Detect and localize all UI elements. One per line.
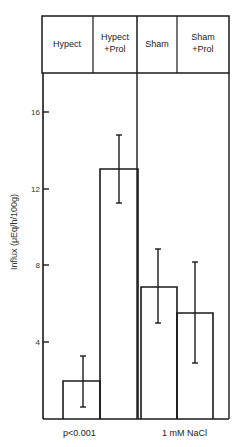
p-value-annotation: p<0.001 bbox=[63, 428, 96, 438]
ytick-12: 12 bbox=[31, 185, 40, 194]
bars bbox=[63, 169, 213, 419]
ytick-16: 16 bbox=[31, 108, 40, 117]
header-sham-prol-line2: +Prol bbox=[192, 44, 213, 54]
ytick-8: 8 bbox=[36, 261, 41, 270]
bar-hypect-prol bbox=[100, 169, 138, 419]
y-axis-ticks bbox=[43, 112, 49, 342]
condition-annotation: 1 mM NaCl bbox=[162, 428, 207, 438]
header-sham: Sham bbox=[145, 39, 169, 49]
header-hypect-prol-line2: +Prol bbox=[104, 44, 125, 54]
header-sham-prol-line1: Sham bbox=[191, 32, 215, 42]
header-hypect-prol-line1: Hypect bbox=[101, 32, 130, 42]
error-bar-sham bbox=[155, 249, 161, 323]
error-bars bbox=[80, 135, 198, 407]
header-hypect: Hypect bbox=[53, 39, 82, 49]
ytick-4: 4 bbox=[36, 338, 41, 347]
plot-frame bbox=[43, 73, 229, 419]
bar-hypect bbox=[63, 381, 100, 419]
y-axis-label: Influx (μEq/h/100g) bbox=[9, 194, 19, 270]
bar-chart: Hypect Hypect +Prol Sham Sham +Prol 16 1… bbox=[0, 0, 245, 447]
bar-sham bbox=[141, 287, 177, 419]
